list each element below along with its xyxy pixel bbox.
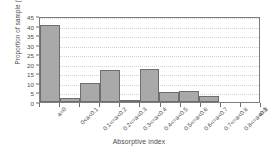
bar-slot: [219, 18, 239, 102]
bar: [100, 70, 120, 102]
y-tick-label: 30: [27, 42, 34, 49]
bar: [80, 83, 100, 102]
x-tick-label: a=1: [257, 106, 268, 117]
bar: [179, 91, 199, 102]
bar-slot: [40, 18, 60, 102]
y-tick-label: 0: [31, 100, 34, 107]
bar-slot: [239, 18, 259, 102]
bar: [159, 92, 179, 103]
y-tick-label: 5: [31, 90, 34, 97]
y-tick-label: 10: [27, 80, 34, 87]
bar-slot: [100, 18, 120, 102]
bar: [140, 69, 160, 102]
bar: [120, 100, 140, 102]
bar-slot: [159, 18, 179, 102]
x-tick-mark: [260, 103, 261, 107]
x-axis-title: Absorptive index: [0, 138, 278, 145]
y-tick-label: 45: [27, 14, 34, 21]
bar-slot: [80, 18, 100, 102]
bar-slot: [199, 18, 219, 102]
bar: [199, 96, 219, 102]
bar-slot: [120, 18, 140, 102]
bar-slot: [179, 18, 199, 102]
y-tick-label: 20: [27, 61, 34, 68]
plot-area: [39, 17, 260, 103]
bar-series: [40, 18, 259, 102]
x-tick-label: a=0: [56, 106, 67, 117]
y-axis-tick-labels: 051015202530354045: [0, 17, 39, 103]
y-tick-label: 25: [27, 52, 34, 59]
bar: [40, 25, 60, 102]
bar-chart-figure: Proportion of sample (%) 051015202530354…: [0, 0, 278, 154]
x-tick-label: 0<a<0.1: [80, 106, 100, 126]
y-tick-label: 35: [27, 33, 34, 40]
bar-slot: [60, 18, 80, 102]
y-tick-label: 15: [27, 71, 34, 78]
bar-slot: [140, 18, 160, 102]
bar: [60, 98, 80, 102]
y-tick-label: 40: [27, 23, 34, 30]
